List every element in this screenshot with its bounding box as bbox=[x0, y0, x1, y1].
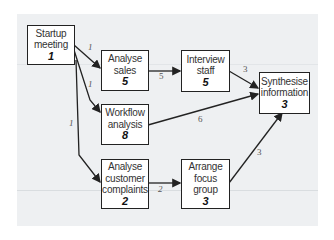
node-synthesise-information: Synthesise information 3 bbox=[259, 72, 310, 114]
edge-workflow-synth bbox=[148, 94, 258, 125]
edge-label: 1 bbox=[88, 42, 93, 52]
node-analyse-customer-complaints: Analyse customer complaints 2 bbox=[101, 159, 149, 209]
node-label: focus bbox=[194, 173, 217, 185]
node-startup-meeting: Startup meeting 1 bbox=[27, 25, 75, 65]
node-duration: 1 bbox=[48, 51, 54, 63]
edge-focus-synth bbox=[229, 113, 282, 183]
node-label: Workflow bbox=[105, 107, 144, 119]
edge-label: 1 bbox=[88, 79, 93, 89]
node-label: Startup bbox=[36, 28, 67, 40]
node-interview-staff: Interview staff 5 bbox=[181, 50, 230, 92]
node-analyse-sales: Analyse sales 5 bbox=[101, 50, 149, 91]
edge-label: 1 bbox=[69, 118, 74, 128]
node-label: Synthesise bbox=[261, 76, 308, 88]
node-duration: 8 bbox=[122, 130, 128, 142]
edge-startup-sales bbox=[74, 45, 100, 68]
node-label: complaints bbox=[102, 184, 148, 196]
node-arrange-focus-group: Arrange focus group 3 bbox=[181, 159, 230, 209]
edge-label: 6 bbox=[198, 114, 203, 124]
edge-label: 2 bbox=[158, 184, 163, 194]
node-duration: 5 bbox=[122, 76, 128, 88]
node-duration: 3 bbox=[203, 196, 209, 208]
node-label: Interview bbox=[186, 54, 224, 66]
edge-label: 3 bbox=[257, 147, 262, 157]
edge-label: 3 bbox=[243, 64, 248, 74]
node-label: Arrange bbox=[188, 161, 222, 173]
node-duration: 5 bbox=[203, 77, 209, 89]
node-duration: 2 bbox=[122, 196, 128, 208]
node-label: customer bbox=[105, 173, 145, 185]
node-workflow-analysis: Workflow analysis 8 bbox=[101, 104, 149, 145]
node-label: group bbox=[193, 184, 218, 196]
node-label: Analyse bbox=[108, 161, 142, 173]
node-duration: 3 bbox=[282, 99, 288, 111]
edge-label: 5 bbox=[159, 71, 164, 81]
node-label: Analyse bbox=[108, 53, 142, 65]
